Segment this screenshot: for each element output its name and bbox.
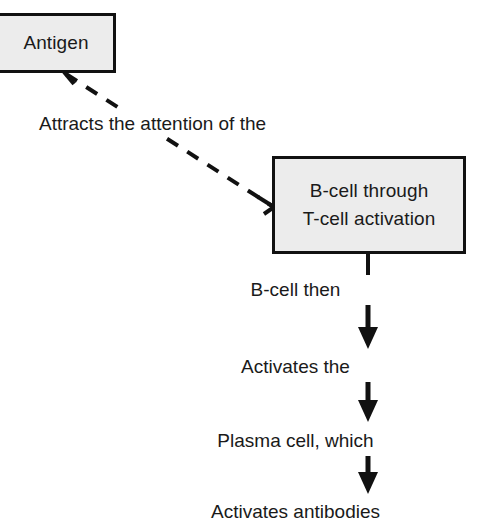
chain-step-b-cell-then: B-cell then: [0, 278, 481, 302]
chain-step-label: Activates antibodies: [211, 501, 380, 522]
chain-step-plasma-cell-which: Plasma cell, which: [0, 429, 481, 453]
chain-step-label: B-cell then: [251, 279, 341, 300]
arrow-down-3: [358, 456, 378, 494]
diagram-canvas: Antigen Attracts the attention of the B-…: [0, 0, 481, 530]
node-bcell-label-line1: B-cell through: [310, 177, 429, 205]
chain-step-label: Activates the: [241, 356, 350, 377]
chain-step-label: Plasma cell, which: [217, 430, 373, 451]
node-antigen[interactable]: Antigen: [0, 13, 116, 73]
chain-step-activates-the: Activates the: [0, 355, 481, 379]
connector-label-attracts: Attracts the attention of the: [36, 111, 269, 137]
node-bcell-label-line2: T-cell activation: [303, 205, 436, 233]
dashed-connector-antigen-to-bcell: [64, 72, 274, 214]
node-antigen-label: Antigen: [23, 29, 88, 57]
arrow-down-2: [358, 382, 378, 422]
arrow-down-1: [358, 305, 378, 349]
node-bcell-through-tcell-activation[interactable]: B-cell through T-cell activation: [272, 156, 466, 254]
chain-step-activates-antibodies: Activates antibodies: [0, 500, 481, 524]
